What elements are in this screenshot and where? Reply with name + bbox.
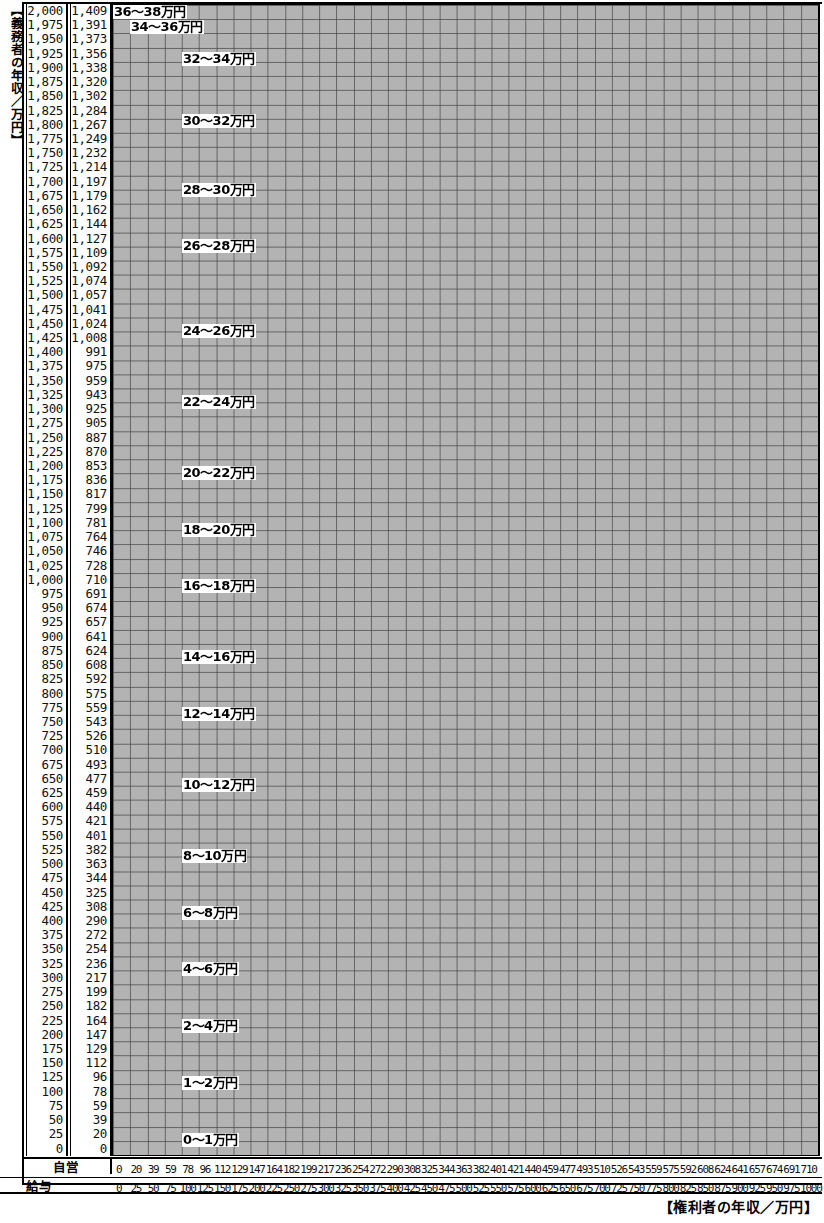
- y-self-tick: 799: [71, 502, 110, 516]
- y-self-tick: 1,041: [71, 303, 110, 317]
- y-salary-tick: 500: [27, 857, 66, 871]
- y-self-tick: 382: [71, 843, 110, 857]
- y-self-tick: 1,092: [71, 260, 110, 274]
- y-self-tick: 493: [71, 758, 110, 772]
- x-self-tick: 608: [697, 1161, 714, 1178]
- band-label: 36～38万円: [113, 5, 187, 19]
- x-salary-tick: 825: [679, 1180, 696, 1197]
- y-self-tick: 674: [71, 601, 110, 615]
- x-self-tick: 96: [196, 1161, 213, 1178]
- y-self-tick: 1,409: [71, 4, 110, 18]
- y-self-tick: 1,197: [71, 175, 110, 189]
- y-salary-tick: 1,450: [27, 317, 66, 331]
- y-salary-tick: 450: [27, 886, 66, 900]
- band-label: 32～34万円: [182, 52, 256, 66]
- x-axis-self-employed-row: 自営02039597896112129147164182199217236254…: [22, 1157, 822, 1174]
- y-self-tick: 217: [71, 971, 110, 985]
- y-self-tick: 781: [71, 516, 110, 530]
- band-label: 2～4万円: [182, 1019, 239, 1033]
- y-self-tick: 836: [71, 473, 110, 487]
- y-salary-tick: 1,550: [27, 260, 66, 274]
- chart-page: 【義務者の年収／万円】 2,0001,9751,9501,9251,9001,8…: [0, 0, 824, 1223]
- x-salary-tick: 875: [714, 1180, 731, 1197]
- x-self-tick: 363: [455, 1161, 472, 1178]
- band-label: 20～22万円: [182, 466, 256, 480]
- x-self-tick: 459: [541, 1161, 558, 1178]
- y-self-tick: 887: [71, 431, 110, 445]
- x-salary-tick: 175: [231, 1180, 248, 1197]
- x-salary-tick: 525: [472, 1180, 489, 1197]
- y-salary-tick: 1,900: [27, 61, 66, 75]
- y-salary-tick: 1,125: [27, 502, 66, 516]
- x-salary-tick: 775: [645, 1180, 662, 1197]
- y-self-tick: 853: [71, 459, 110, 473]
- y-salary-tick: 1,625: [27, 217, 66, 231]
- y-self-tick: 147: [71, 1028, 110, 1042]
- y-salary-tick: 275: [27, 985, 66, 999]
- x-salary-tick: 725: [610, 1180, 627, 1197]
- y-self-tick: 710: [71, 573, 110, 587]
- y-self-tick: 1,356: [71, 47, 110, 61]
- band-label: 30～32万円: [182, 114, 256, 128]
- x-salary-tick: 400: [386, 1180, 403, 1197]
- y-self-tick: 1,338: [71, 61, 110, 75]
- y-self-tick: 1,232: [71, 146, 110, 160]
- x-salary-tick: 325: [334, 1180, 351, 1197]
- y-salary-tick: 825: [27, 672, 66, 686]
- y-salary-tick: 125: [27, 1070, 66, 1084]
- band-label: 16～18万円: [182, 579, 256, 593]
- y-self-tick: 817: [71, 487, 110, 501]
- y-self-tick: 290: [71, 914, 110, 928]
- y-salary-tick: 1,375: [27, 359, 66, 373]
- y-salary-tick: 1,000: [27, 573, 66, 587]
- y-self-tick: 959: [71, 374, 110, 388]
- y-self-tick: 459: [71, 786, 110, 800]
- y-salary-tick: 1,825: [27, 104, 66, 118]
- y-self-tick: 905: [71, 416, 110, 430]
- x-salary-tick: 750: [628, 1180, 645, 1197]
- y-salary-tick: 1,850: [27, 89, 66, 103]
- y-salary-tick: 2,000: [27, 4, 66, 18]
- band-label: 0～1万円: [182, 1133, 239, 1147]
- y-self-tick: 1,162: [71, 203, 110, 217]
- band-label: 6～8万円: [182, 906, 239, 920]
- y-salary-tick: 400: [27, 914, 66, 928]
- x-self-tick: 624: [714, 1161, 731, 1178]
- x-salary-tick: 300: [317, 1180, 334, 1197]
- y-salary-tick: 1,325: [27, 388, 66, 402]
- y-salary-tick: 150: [27, 1056, 66, 1070]
- y-self-tick: 308: [71, 900, 110, 914]
- y-salary-tick: 650: [27, 772, 66, 786]
- x-salary-tick: 100: [179, 1180, 196, 1197]
- y-self-tick: 440: [71, 800, 110, 814]
- x-salary-tick: 375: [369, 1180, 386, 1197]
- y-self-tick: 112: [71, 1056, 110, 1070]
- y-self-tick: 1,074: [71, 274, 110, 288]
- x-self-tick: 526: [610, 1161, 627, 1178]
- y-salary-tick: 1,025: [27, 559, 66, 573]
- y-salary-tick: 1,525: [27, 274, 66, 288]
- y-salary-tick: 850: [27, 658, 66, 672]
- y-salary-tick: 1,050: [27, 544, 66, 558]
- y-self-tick: 510: [71, 743, 110, 757]
- x-self-tick: 254: [352, 1161, 369, 1178]
- y-salary-tick: 100: [27, 1085, 66, 1099]
- y-self-tick: 543: [71, 715, 110, 729]
- x-self-tick: 236: [334, 1161, 351, 1178]
- y-salary-tick: 900: [27, 630, 66, 644]
- x-self-tick: 129: [231, 1161, 248, 1178]
- y-self-tick: 728: [71, 559, 110, 573]
- y-salary-tick: 1,650: [27, 203, 66, 217]
- y-self-tick: 1,008: [71, 331, 110, 345]
- x-salary-tick: 200: [248, 1180, 265, 1197]
- x-self-tick: 20: [127, 1161, 144, 1178]
- y-salary-tick: 75: [27, 1099, 66, 1113]
- x-salary-tick: 950: [766, 1180, 783, 1197]
- y-salary-tick: 1,725: [27, 160, 66, 174]
- y-self-tick: 1,249: [71, 132, 110, 146]
- y-self-tick: 870: [71, 445, 110, 459]
- y-self-tick: 0: [71, 1142, 110, 1156]
- y-self-tick: 1,179: [71, 189, 110, 203]
- band-label: 10～12万円: [182, 778, 256, 792]
- x-axis-salary-ticks: 0255075100125150175200225250275300325350…: [110, 1178, 818, 1197]
